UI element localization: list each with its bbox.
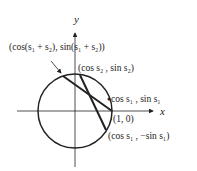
unit-circle-diagram: y x (cos(s₁ + s₂), sin(s₁ + s₂)) (cos s₂… bbox=[0, 0, 197, 171]
label-neg-s1-point: (cos s₁ , −sin s₁) bbox=[108, 131, 169, 142]
label-s1-point: cos s₁ , sin s₁ bbox=[111, 94, 161, 104]
label-s2-point: (cos s₂ , sin s₂) bbox=[78, 63, 134, 74]
chord-s2-to-neg-s1 bbox=[80, 75, 106, 130]
label-origin-point: (1, 0) bbox=[113, 114, 134, 125]
label-sum-point: (cos(s₁ + s₂), sin(s₁ + s₂)) bbox=[9, 42, 105, 53]
x-axis-label: x bbox=[159, 105, 165, 117]
chord-sum-to-origin bbox=[63, 76, 112, 111]
pointer-arrow bbox=[51, 61, 61, 73]
y-axis-label: y bbox=[73, 13, 79, 25]
